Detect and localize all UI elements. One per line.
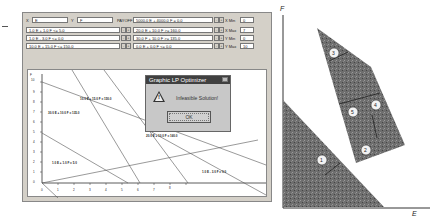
y-tick: 3 bbox=[33, 149, 35, 155]
warning-exclamation-icon: ! bbox=[158, 94, 160, 100]
dialog-message: Infeasible Solution! bbox=[176, 95, 218, 101]
x-tick: 5 bbox=[121, 187, 123, 193]
marker-4: 4 bbox=[374, 102, 377, 108]
y-tick: 9 bbox=[33, 89, 35, 95]
y-tick: 5 bbox=[33, 129, 35, 135]
x-variable-label: X bbox=[26, 18, 29, 24]
x-tick: 1 bbox=[57, 187, 59, 193]
marker-5: 5 bbox=[351, 109, 354, 115]
x-tick: 8 bbox=[169, 185, 171, 191]
line-label: 1.0 E - 3.0 F = 0.0 bbox=[202, 169, 226, 175]
line-label: 1.0 E + 1.0 F = 5.0 bbox=[52, 160, 77, 166]
ok-button[interactable]: OK bbox=[167, 111, 211, 123]
line-label: 10.0 E + 15.0 F = 150.0 bbox=[80, 96, 112, 102]
lp-optimizer-window: X E Y F PAYOFF 5000.0 E + 4000.0 F = 0.0… bbox=[22, 12, 272, 202]
y-tick: 8 bbox=[33, 99, 35, 105]
constraint-3-up-button[interactable]: + bbox=[126, 43, 131, 49]
y-max-label: Y Max bbox=[225, 44, 236, 50]
line-label: 30.0 E + 10.0 F = 135.0 bbox=[48, 110, 80, 116]
marker-2: 2 bbox=[364, 147, 367, 153]
dialog-title-bar: Graphic LP Optimizer bbox=[146, 76, 230, 84]
margin-mark bbox=[2, 26, 8, 27]
constraint-input-6[interactable]: 0.0 E + 0.0 F <= 0.0 bbox=[133, 43, 213, 49]
payoff-label: PAYOFF bbox=[117, 18, 132, 24]
y-min-label: Y Min bbox=[225, 36, 235, 42]
constraint-input-3[interactable]: 10.0 E + 15.0 F <= 150.0 bbox=[26, 43, 120, 49]
x-tick: 6 bbox=[137, 187, 139, 193]
x-min-label: X Min bbox=[225, 18, 235, 24]
line-label: 20.0 E + 10.0 F = 160.0 bbox=[146, 133, 178, 139]
f-axis-label: F bbox=[280, 6, 284, 12]
feasible-region-figure: F E 3 4 5 2 1 bbox=[280, 0, 435, 223]
constraint-2-up-button[interactable]: + bbox=[126, 35, 131, 41]
constraint-6-up-button[interactable]: + bbox=[219, 43, 224, 49]
x-max-input[interactable]: 7 bbox=[240, 27, 254, 33]
x-variable-input[interactable]: E bbox=[32, 17, 68, 23]
constraint-input-4[interactable]: 20.0 E + 10.0 F >= 160.0 bbox=[133, 27, 213, 33]
x-tick: 7 bbox=[153, 187, 155, 193]
constraint-5-up-button[interactable]: + bbox=[219, 35, 224, 41]
y-tick: 4 bbox=[33, 139, 35, 145]
constraint-input-2[interactable]: 1.0 E - 3.0 F <= 0.0 bbox=[26, 35, 120, 41]
dialog-title: Graphic LP Optimizer bbox=[149, 77, 206, 83]
y-variable-label: Y bbox=[71, 18, 74, 24]
close-icon[interactable] bbox=[222, 77, 228, 82]
y-tick: 10 bbox=[31, 77, 34, 83]
constraint-input-1[interactable]: 1.0 E + 1.0 F <= 5.0 bbox=[26, 27, 120, 33]
marker-3: 3 bbox=[332, 50, 335, 56]
y-tick: 0 bbox=[33, 179, 35, 185]
x-tick: 2 bbox=[73, 187, 75, 193]
constraint-1-up-button[interactable]: + bbox=[126, 27, 131, 33]
infeasible-dialog: Graphic LP Optimizer ! Infeasible Soluti… bbox=[145, 75, 231, 132]
region-diagram bbox=[280, 0, 435, 223]
objective-up-button[interactable]: + bbox=[219, 17, 224, 23]
constraint-input-5[interactable]: 30.0 F + 10.0 F >= 135.0 bbox=[133, 35, 213, 41]
y-variable-input[interactable]: F bbox=[77, 17, 113, 23]
marker-1: 1 bbox=[320, 157, 323, 163]
x-tick: 0 bbox=[41, 187, 43, 193]
x-tick: 4 bbox=[105, 187, 107, 193]
objective-input[interactable]: 5000.0 E + 4000.0 F = 0.0 bbox=[133, 17, 213, 23]
y-tick: 2 bbox=[33, 159, 35, 165]
y-tick: 6 bbox=[33, 119, 35, 125]
x-tick: 3 bbox=[89, 187, 91, 193]
y-tick: 7 bbox=[33, 109, 35, 115]
y-tick: 1 bbox=[33, 169, 35, 175]
y-max-input[interactable]: 10 bbox=[240, 43, 254, 49]
y-min-input[interactable]: 0 bbox=[240, 35, 254, 41]
x-min-input[interactable]: 0 bbox=[240, 17, 254, 23]
e-axis-label: E bbox=[412, 211, 417, 217]
constraint-4-up-button[interactable]: + bbox=[219, 27, 224, 33]
x-max-label: X Max bbox=[225, 28, 236, 34]
